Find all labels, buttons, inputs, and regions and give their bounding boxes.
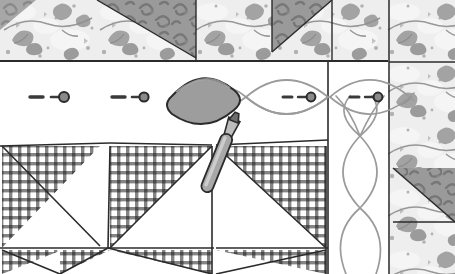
top-border-floral-ground: [0, 0, 455, 62]
quilt-illustration: Quilt top with marked quilting designs h…: [0, 0, 455, 274]
right-border-strip: [388, 0, 455, 274]
pinwheel-block-row: [0, 140, 328, 274]
pin-head: [307, 93, 316, 102]
top-border-strip: [0, 0, 455, 62]
pin-head: [59, 92, 69, 102]
pin-head: [139, 92, 148, 101]
quilt-artwork: [0, 0, 455, 274]
right-border-floral-ground: [388, 0, 455, 274]
pin-head: [374, 93, 383, 102]
